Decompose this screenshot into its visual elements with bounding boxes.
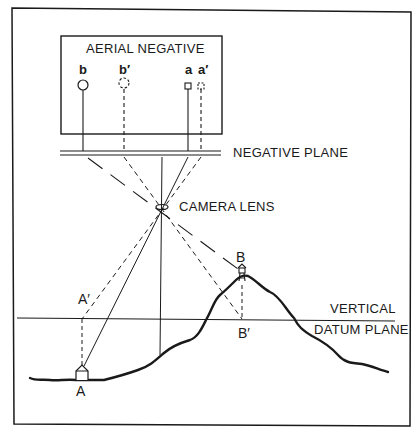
point-a-prime-dashed-square-icon <box>198 83 204 89</box>
point-A-prime-label: A′ <box>78 291 90 307</box>
principal-axis-line <box>160 157 162 355</box>
relief-displacement-diagram: AERIAL NEGATIVE b b′ a a′ NEGATIVE PLANE… <box>0 0 418 438</box>
ray-b-to-B <box>88 158 242 272</box>
house-icon <box>76 365 88 380</box>
point-b-label: b <box>79 62 87 77</box>
point-a-label: a <box>185 62 193 77</box>
ray-a-to-A <box>84 157 188 366</box>
point-b-prime-label: b′ <box>119 62 130 77</box>
negative-plane-label: NEGATIVE PLANE <box>233 145 348 160</box>
tower-icon <box>238 264 246 281</box>
point-A-label: A <box>76 383 86 399</box>
camera-lens-label: CAMERA LENS <box>179 199 275 214</box>
aerial-negative-label: AERIAL NEGATIVE <box>86 41 205 56</box>
point-a-square-icon <box>185 83 191 89</box>
vertical-datum-label-line2: DATUM PLANE <box>314 322 409 337</box>
point-a-prime-label: a′ <box>198 62 208 77</box>
point-B-label: B <box>236 249 245 265</box>
vertical-datum-label-line1: VERTICAL <box>330 301 396 316</box>
point-B-prime-label: B′ <box>238 325 250 341</box>
point-b-prime-dashed-circle-icon <box>119 78 129 88</box>
point-b-circle-icon <box>78 80 88 90</box>
